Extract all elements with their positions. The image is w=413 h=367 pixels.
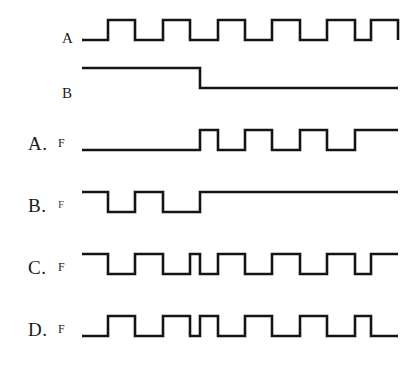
timing-diagram-figure: ABA.FB.FC.FD.F: [0, 0, 413, 367]
waveform-row-option-b: B.F: [0, 186, 413, 220]
waveform-path-option-c: [82, 254, 398, 274]
waveform-trace-ref-b: [0, 62, 413, 96]
waveform-trace-option-b: [0, 186, 413, 220]
waveform-trace-ref-a: [0, 14, 413, 48]
waveform-row-ref-a: A: [0, 14, 413, 48]
waveform-row-option-c: C.F: [0, 248, 413, 282]
waveform-trace-option-c: [0, 248, 413, 282]
waveform-path-option-d: [82, 316, 398, 336]
waveform-trace-option-a: [0, 124, 413, 158]
waveform-row-option-a: A.F: [0, 124, 413, 158]
waveform-row-ref-b: B: [0, 62, 413, 96]
waveform-path-ref-a: [82, 20, 398, 40]
waveform-trace-option-d: [0, 310, 413, 344]
waveform-path-ref-b: [82, 68, 398, 88]
waveform-row-option-d: D.F: [0, 310, 413, 344]
waveform-path-option-a: [82, 130, 398, 150]
waveform-path-option-b: [82, 192, 398, 212]
